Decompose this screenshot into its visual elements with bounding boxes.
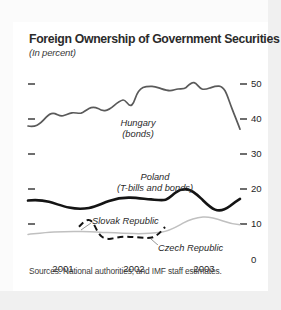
series-label-poland-line1: Poland xyxy=(110,172,200,183)
plot-area: 50 40 30 20 10 0 2001 2002 2003 Hungary … xyxy=(13,60,268,245)
series-label-hungary-line2: (bonds) xyxy=(108,129,168,140)
y-tick-label-10: 10 xyxy=(251,218,262,229)
series-label-poland: Poland (T-bills and bonds) xyxy=(110,172,200,193)
series-label-hungary-line1: Hungary xyxy=(108,118,168,129)
page-edge-left xyxy=(0,0,13,310)
series-label-hungary: Hungary (bonds) xyxy=(108,118,168,139)
chart-card: Foreign Ownership of Government Securiti… xyxy=(13,22,268,291)
y-tick-label-50: 50 xyxy=(251,78,262,89)
source-note: Sources: National authorities; and IMF s… xyxy=(29,266,222,276)
y-tick-label-0: 0 xyxy=(251,254,256,265)
y-tick-label-40: 40 xyxy=(251,113,262,124)
series-label-slovak: Slovak Republic xyxy=(92,216,172,227)
y-tick-label-30: 30 xyxy=(251,148,262,159)
series-label-poland-line2: (T-bills and bonds) xyxy=(110,183,200,194)
series-label-czech: Czech Republic xyxy=(158,243,238,254)
page-edge-right xyxy=(268,0,281,310)
y-tick-label-20: 20 xyxy=(251,183,262,194)
chart-title: Foreign Ownership of Government Securiti… xyxy=(29,33,261,46)
figure-panel: Foreign Ownership of Government Securiti… xyxy=(0,0,281,310)
chart-subtitle: (In percent) xyxy=(29,47,76,58)
page-edge-top xyxy=(0,0,281,22)
page-edge-bottom xyxy=(0,291,281,310)
